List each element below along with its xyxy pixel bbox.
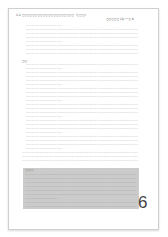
text-line: ○○○○○○○○○○○○○○○○○○○○○○○○○○○○○○○○○○○○○○○○…	[25, 186, 137, 187]
note-box-label: ○○○○	[25, 169, 34, 172]
text-line: ○○○○○○○○○○○○○○○○○○○○○○○○○○○○○○○○○○○○○○○○…	[26, 140, 138, 141]
text-line: ○○○○○○○○○○○○○○○○○○○○○○○○○○○○○○○○○○○○○○○○…	[25, 194, 137, 195]
section-heading: ○○	[22, 59, 27, 63]
text-line: ○○○○○○○○○○○○○○○○○○○○○○○○○○○○○○○○○○○○○○○○…	[26, 37, 138, 38]
text-line: ○○○○○○○○○○○○○○○○○	[26, 116, 64, 117]
text-line: ○○○○○○○○○○○○○○○○○○○○○○○○○○○○○○○○○○○○○○○○…	[26, 136, 138, 137]
text-line: ○○○○○○○○○○○○○○○○○○○○○○○○○○○○○○○○○○○○○○○○…	[26, 112, 138, 113]
text-line: ○○○○○○○○○○○○○○○○○○○○○○○○○○○○○○○○○○○○○○○○…	[22, 152, 138, 153]
text-line: ○○○○○○○○○○○○○○○○○	[26, 84, 64, 85]
text-line: ○○○○○○○○○○○○○○○○○○○○○○○○○○○○○○○○○○○○○○○○…	[25, 174, 137, 175]
text-line: ○○○○○○○○○○○○○○○○○○○○○○○○○○○○○○○○○○○○○○○○…	[25, 206, 137, 207]
text-line: ○○○○○○○○○○○○○○○○○○○○○○○○○○○○○○○○○○○○○○○○…	[26, 45, 138, 46]
text-line: ○○○○○○○○○○○○○○○○○○○○○○○○○○○○○○○○○○○○○○○○…	[26, 29, 138, 30]
text-line: ○○○○○○○○○○○○○○○○○○○○○○○○○○○○○○○○○○○○○○○○…	[26, 53, 138, 54]
text-line: ○○○○○○○○○○○○○○○○○	[26, 148, 64, 149]
document-reference: ○○○○○ (1) 一○ 4	[106, 17, 134, 21]
text-line: ○○○○○○○○○○○○○○○○○○○○○○○○○○○○○○○○○○○○○○○○…	[25, 190, 137, 191]
text-line: ○○○○○○○○○○○○○○○○○○○○○○○○○○○○○○○○○○○○○○○○…	[26, 124, 138, 125]
text-line: ○○○○○○○○○○○○○○○○○○○○○○○○○○○○○○○○○○○○○○○○…	[25, 178, 137, 179]
text-line: ○○○○○○○○○○○○○○○○○	[26, 25, 64, 26]
highlighted-note-box: ○○○○ ○○○○○○○○○○○○○○○○○○○○○○○○○○○○○○○○○○○…	[23, 168, 139, 209]
text-line: ○○○○○○○○○○○○○○○○○○○○○○○○○○○○○○○○○○○○○○○○…	[22, 156, 138, 157]
text-line: ○○○○○○○○○○○○○○○○○○○○○○○○○○○○○○○○○○○○○○○○…	[26, 33, 138, 34]
text-line: ○○○○○○○○○○○○○○○○○	[26, 132, 64, 133]
text-line: ○○○○○○○○○○○○○○○○○○○○○○○○○○○○○○○○○○○○○○○○…	[25, 182, 137, 183]
text-line: ○○○○○○○○○○○○○○○○○○○○○○○○○○○○○○○○○○○○○○○○…	[26, 96, 138, 97]
text-line: ○○○○○○○○○○○○○○○○○○○○○○○○○○○○○○○○○○○○○○○○…	[26, 144, 138, 145]
text-line: ○○○○○○○○○○○○○○○○○○○○○○○○○○○○○○○○○○○○○○○○…	[26, 104, 138, 105]
text-line: ○○○○○○○○○○○○○○○○○	[26, 41, 64, 42]
text-line: ○○○○○○○○○○○○○○○○○○○○○○○○○○○○○○○○○○○○○○○○…	[26, 76, 138, 77]
text-line: ○○○○○○○○○○○○○○○○○○○○○○○○○○○○○○○○○○○○○○○○…	[26, 128, 138, 129]
text-line: ○○○○○○○○○○○○○○○○○○○○○○○○○○○○○○○○○○○○○○○○…	[26, 49, 138, 50]
text-line: ○○○○○○○○○○○○○○○○○○○○○○○○○○○○○○○○○○○○○○○○…	[26, 88, 138, 89]
text-line: ○○○○○○○○○○○○○○○○○	[25, 198, 105, 199]
text-line: ○○○○○○○○○○○○○○○○○○○○○○○○○○○○○○○○○○○○○○○○…	[22, 160, 138, 161]
text-line: ○○○○○○○○○○○○○○○○○○○○○○○○○○○○○○○○○○○○○○○○…	[26, 92, 138, 93]
text-line: ○○○○○○○○○○○○○○○○○○○○○○○○○○○○○○○○○○○○○○○○…	[26, 108, 138, 109]
text-line: ○○○○○○○○○○○○○○○○○○○○○○○○○○○○○○○○○○○○○○○○…	[26, 80, 138, 81]
text-line: ○○○○○○○○○○○○○○○○○○○○○○○○○○○○○○○○○○○○○○○○…	[26, 120, 138, 121]
text-line: ○○○○○○○○○○○○○○○○○	[26, 68, 64, 69]
text-line: ○○○○○○○○○○○○○○○○○○○○○○○○○○○○○○○○○○○○○○○○…	[26, 72, 138, 73]
text-line: ○○○○○○○○○○○○○○○○○	[26, 100, 64, 101]
page-number: 6	[138, 193, 147, 213]
text-line: ○○○○○○○○○○○○○○○○○○○○○○○○○○○○○○○○○○○○○○○○…	[26, 64, 138, 65]
text-line: ○○○○○○○○○○○○○○○○○○○○○○○○○○○○○○○○○○○○○○○○…	[25, 202, 137, 203]
section-title: 1.2 ○○○○○○○○○○○○○○○○○○○○（○○○）	[16, 13, 88, 17]
